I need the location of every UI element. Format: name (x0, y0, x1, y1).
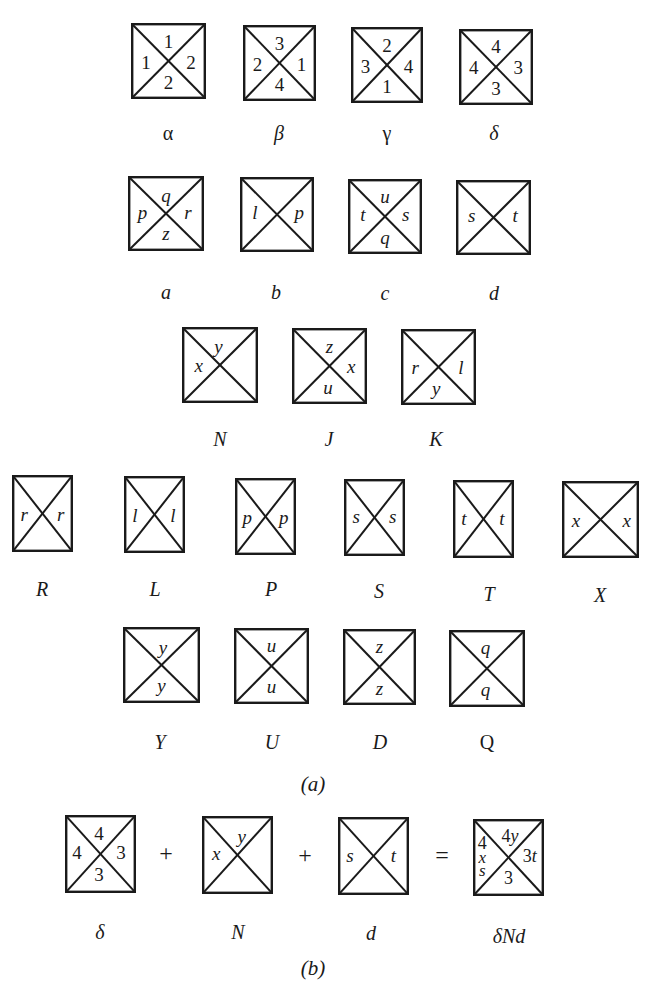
tile-a: q r z p (128, 176, 204, 251)
edge-left: p (242, 507, 252, 526)
tile-label-K: K (429, 428, 442, 451)
tile-label-T: T (483, 583, 494, 606)
edge-top: q (481, 637, 491, 656)
tile-label-L: L (149, 578, 160, 601)
edge-right: p (294, 202, 304, 221)
edge-left: x (195, 356, 203, 375)
edge-left: 3 (361, 56, 371, 75)
edge-left: s (346, 846, 353, 865)
edge-bottom: q (481, 680, 491, 699)
edge-left: p (138, 203, 148, 222)
edge-right: 3t (523, 847, 537, 865)
edge-left: 4 (72, 843, 82, 862)
tile-label-a: a (161, 281, 171, 304)
edge-top: q (161, 185, 171, 204)
plus-operator-1: + (159, 840, 173, 867)
edge-right: s (402, 205, 409, 224)
edge-right: 4 (404, 56, 414, 75)
edge-bottom: 2 (164, 73, 174, 92)
edge-left: t (461, 509, 466, 528)
edge-right: s (389, 506, 396, 525)
tile-K: l y r (401, 329, 476, 405)
eq-label-delta: δ (95, 921, 104, 944)
tile-label-d: d (489, 282, 499, 305)
edge-bottom: y (432, 378, 440, 397)
edge-left: t (360, 205, 365, 224)
edge-right: x (347, 357, 355, 376)
edge-bottom: u (323, 377, 333, 396)
tile-X: x x (562, 481, 639, 558)
edge-left: x (212, 844, 220, 863)
tile-label-R: R (36, 578, 48, 601)
tile-label-J: J (325, 428, 334, 451)
tile-label-D: D (373, 731, 387, 754)
tile-S: s s (344, 479, 405, 556)
edge-top: y (214, 337, 222, 356)
tile-d: t s (456, 180, 531, 255)
tile-Q: q q (449, 630, 525, 707)
edge-left: r (20, 504, 27, 523)
tile-J: z x u (292, 328, 367, 404)
tile-label-c: c (381, 282, 390, 305)
eq-tile-N: y x (202, 816, 273, 894)
tile-label-S: S (374, 580, 384, 603)
edge-left: 2 (253, 54, 263, 73)
edge-right: t (391, 846, 396, 865)
edge-right: t (513, 206, 518, 225)
tile-delta: 4 3 3 4 (459, 29, 533, 105)
edge-right: x (622, 511, 630, 530)
eq-label-d: d (366, 922, 376, 945)
edge-bottom: z (162, 224, 169, 243)
tile-alpha: 1 2 2 1 (131, 23, 206, 99)
edge-right: 1 (297, 54, 307, 73)
edge-top-value: 4y (501, 826, 518, 846)
tile-label-gamma: γ (383, 122, 392, 145)
edge-top: z (326, 337, 333, 356)
edge-right-value: 3t (523, 846, 537, 866)
edge-top: 4 (94, 823, 104, 842)
edge-top: 2 (382, 36, 392, 55)
tile-label-X: X (594, 584, 606, 607)
edge-left: l (132, 505, 137, 524)
equals-operator: = (435, 842, 449, 869)
edge-left: x (572, 511, 580, 530)
tile-label-beta: β (274, 122, 284, 145)
tile-P: p p (235, 478, 296, 555)
eq-tile-d: t s (338, 817, 409, 895)
part-b-caption: (b) (301, 956, 326, 981)
tile-label-b: b (271, 281, 281, 304)
edge-left: l (252, 202, 257, 221)
edge-left: s (352, 506, 359, 525)
edge-top: 3 (275, 34, 285, 53)
eq-tile-result: 4y 3t 3 4 x s (473, 819, 544, 896)
edge-top: 4y (501, 827, 518, 845)
tile-R: r r (12, 475, 73, 552)
edge-bottom: 3 (491, 79, 501, 98)
edge-right: l (458, 358, 463, 377)
tile-Y: y y (123, 627, 200, 703)
edge-bottom: q (380, 227, 390, 246)
edge-left-stack: 4 x s (478, 835, 487, 877)
part-a-caption: (a) (301, 772, 326, 797)
edge-bottom: z (376, 678, 383, 697)
edge-bottom: 4 (275, 75, 285, 94)
edge-right: p (279, 507, 289, 526)
tile-beta: 3 1 4 2 (243, 25, 316, 101)
edge-top: 1 (164, 32, 174, 51)
edge-right: r (184, 203, 191, 222)
tile-label-P: P (265, 578, 277, 601)
edge-right: r (57, 504, 64, 523)
tile-label-U: U (265, 731, 279, 754)
edge-bottom: 3 (94, 864, 104, 883)
tile-T: t t (453, 480, 514, 558)
tile-label-Q: Q (480, 731, 494, 754)
eq-label-result: δNd (493, 925, 526, 948)
tile-b: p l (240, 177, 314, 252)
edge-bottom: y (157, 675, 165, 694)
tile-label-Y: Y (154, 731, 165, 754)
edge-right: l (170, 505, 175, 524)
edge-right: 3 (513, 58, 523, 77)
tile-L: l l (124, 476, 185, 553)
edge-left: s (468, 206, 475, 225)
plus-operator-2: + (298, 842, 312, 869)
